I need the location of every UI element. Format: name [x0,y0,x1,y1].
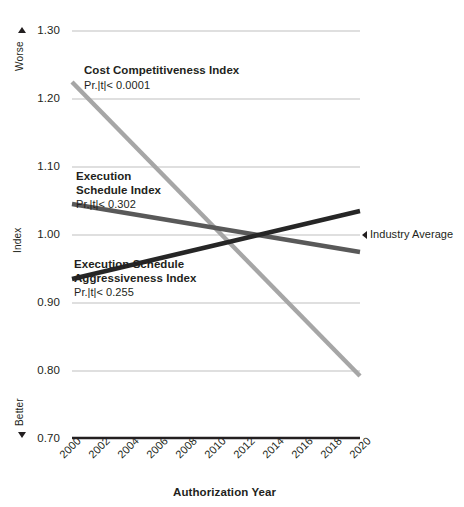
series-annotation-pvalue: Pr.|t|< 0.302 [76,198,136,211]
y-tick-label: 1.10 [18,160,60,173]
series-annotation-title-line1: Execution Schedule [74,258,184,271]
y-tick-label: 0.90 [18,296,60,309]
series-annotation-title-line2: Schedule Index [76,184,161,197]
series-annotation-title: Cost Competitiveness Index [84,64,239,77]
chart-container: 1.30 1.20 1.10 1.00 0.90 0.80 0.70 2000 … [0,0,464,507]
series-annotation-pvalue: Pr.|t|< 0.255 [74,286,134,299]
y-tick-label: 1.00 [18,228,60,241]
y-tick-label: 0.80 [18,364,60,377]
y-tick-label: 1.20 [18,92,60,105]
y-axis-title: Index [12,228,24,253]
worse-label: Worse [14,41,26,71]
x-axis-title: Authorization Year [173,486,276,499]
worse-arrow-icon [18,27,26,33]
industry-average-label: Industry Average [370,228,453,241]
series-annotation-title-line1: Execution [76,170,131,183]
industry-average-arrow-icon [362,231,367,239]
series-annotation-title-line2: Aggressiveness Index [74,272,196,285]
better-label: Better [14,398,26,426]
series-annotation-pvalue: Pr.|t|< 0.0001 [84,79,150,92]
better-arrow-icon [18,432,26,438]
